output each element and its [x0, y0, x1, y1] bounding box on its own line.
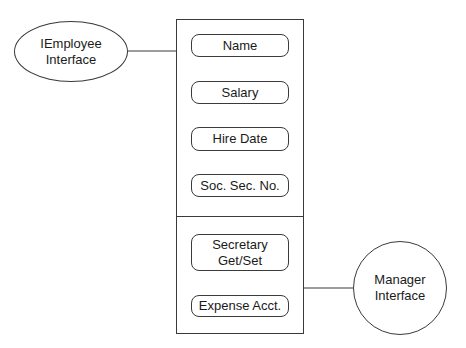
iemployee-label-line1: IEmployee	[40, 36, 101, 52]
member-name: Name	[191, 34, 289, 57]
manager-label-line1: Manager	[374, 272, 425, 288]
member-soc-sec-no-label: Soc. Sec. No.	[200, 178, 279, 194]
iemployee-label-line2: Interface	[46, 52, 97, 68]
member-secretary-label-line1: Secretary	[212, 237, 268, 253]
member-expense-acct: Expense Acct.	[191, 295, 289, 317]
iemployee-interface-node: IEmployee Interface	[14, 21, 128, 82]
section-divider	[176, 216, 304, 217]
member-hire-date-label: Hire Date	[213, 131, 268, 147]
member-salary-label: Salary	[222, 85, 259, 101]
manager-interface-node: Manager Interface	[353, 241, 447, 335]
manager-label-line2: Interface	[375, 288, 426, 304]
member-name-label: Name	[223, 38, 258, 54]
member-soc-sec-no: Soc. Sec. No.	[191, 174, 289, 197]
member-hire-date: Hire Date	[191, 127, 289, 151]
member-salary: Salary	[191, 81, 289, 104]
member-expense-acct-label: Expense Acct.	[199, 298, 281, 314]
member-secretary-label-line2: Get/Set	[218, 253, 262, 269]
member-secretary-get-set: Secretary Get/Set	[191, 234, 289, 271]
